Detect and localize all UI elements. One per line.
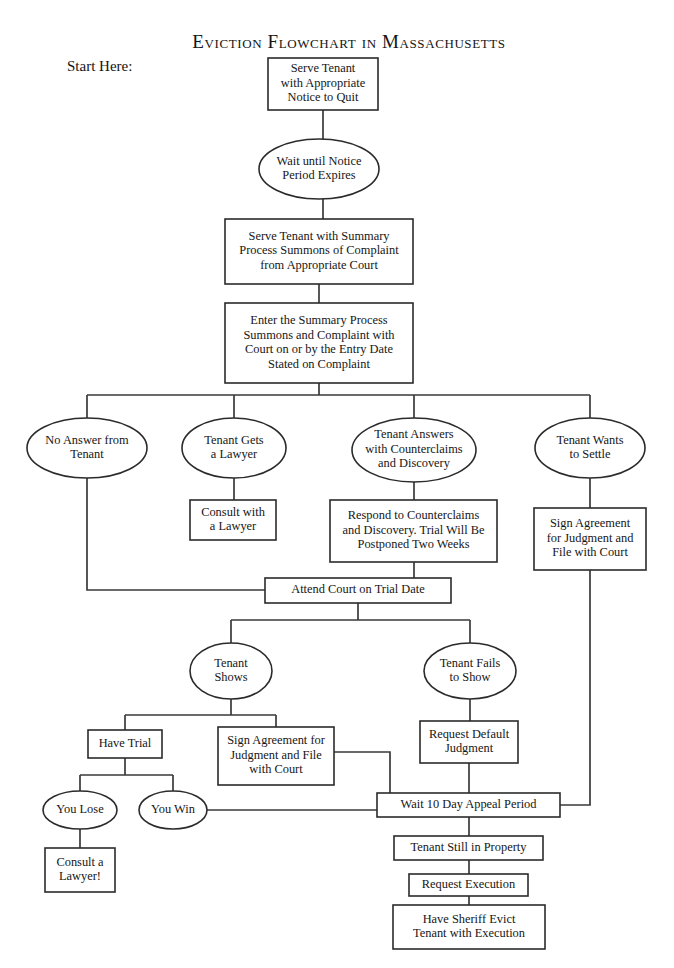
node-label: to Show bbox=[450, 670, 491, 684]
flow-node[interactable]: Tenant Still in Property bbox=[394, 836, 543, 860]
node-label: Tenant bbox=[70, 447, 104, 461]
node-label: Enter the Summary Process bbox=[250, 313, 387, 327]
node-label: with Counterclaims bbox=[365, 442, 463, 456]
node-label: and Discovery bbox=[378, 456, 451, 470]
flowchart-canvas: Eviction Flowchart in Massachusetts Star… bbox=[0, 0, 674, 968]
node-label: from Appropriate Court bbox=[260, 258, 378, 272]
node-label: Request Execution bbox=[422, 877, 515, 891]
node-label: Serve Tenant bbox=[291, 61, 356, 75]
node-label: Have Trial bbox=[99, 736, 152, 750]
node-label: Postponed Two Weeks bbox=[358, 537, 470, 551]
flow-connector bbox=[334, 752, 390, 793]
node-label: for Judgment and bbox=[547, 531, 635, 545]
flow-connector bbox=[231, 603, 470, 645]
node-label: a Lawyer bbox=[210, 519, 257, 533]
node-label: Tenant Gets bbox=[204, 433, 264, 447]
flow-node[interactable]: Have Trial bbox=[88, 730, 162, 758]
node-label: Wait until Notice bbox=[276, 154, 362, 168]
node-label: Tenant Wants bbox=[556, 433, 623, 447]
node-label: Period Expires bbox=[282, 168, 355, 182]
flow-node[interactable]: Consult witha Lawyer bbox=[190, 500, 276, 540]
node-label: Notice to Quit bbox=[288, 90, 359, 104]
flow-connector bbox=[80, 758, 173, 791]
node-label: Tenant Fails bbox=[440, 656, 501, 670]
node-label: Process Summons of Complaint bbox=[239, 243, 399, 257]
flow-node[interactable]: Have Sheriff EvictTenant with Execution bbox=[393, 905, 545, 949]
node-label: a Lawyer bbox=[211, 447, 258, 461]
flow-node[interactable]: Wait until NoticePeriod Expires bbox=[259, 139, 379, 199]
flow-node[interactable]: TenantShows bbox=[190, 643, 272, 699]
node-label: Sign Agreement for bbox=[227, 733, 326, 747]
node-label: Wait 10 Day Appeal Period bbox=[401, 797, 538, 811]
flow-node[interactable]: Respond to Counterclaimsand Discovery. T… bbox=[330, 500, 497, 562]
flow-connector bbox=[560, 570, 590, 805]
node-label: with Court bbox=[249, 762, 303, 776]
flow-node[interactable]: Enter the Summary ProcessSummons and Com… bbox=[225, 303, 413, 383]
node-label: You Win bbox=[151, 802, 195, 816]
node-label: Court on or by the Entry Date bbox=[245, 342, 393, 356]
node-label: File with Court bbox=[552, 545, 628, 559]
node-label: You Lose bbox=[56, 802, 104, 816]
flow-connector bbox=[87, 383, 590, 421]
node-label: Stated on Complaint bbox=[268, 357, 370, 371]
flow-node[interactable]: You Lose bbox=[43, 791, 117, 829]
node-label: Consult a bbox=[56, 855, 104, 869]
flow-node[interactable]: Consult aLawyer! bbox=[45, 848, 115, 892]
flow-node[interactable]: Request Execution bbox=[409, 874, 528, 896]
node-label: Respond to Counterclaims bbox=[348, 508, 480, 522]
node-layer: Serve Tenantwith AppropriateNotice to Qu… bbox=[27, 58, 646, 949]
flow-node[interactable]: Sign Agreement forJudgment and Filewith … bbox=[218, 727, 334, 785]
node-label: Tenant Answers bbox=[374, 427, 453, 441]
node-label: and Discovery. Trial Will Be bbox=[343, 523, 485, 537]
node-label: Judgment bbox=[445, 741, 494, 755]
node-label: Serve Tenant with Summary bbox=[248, 229, 390, 243]
node-label: Attend Court on Trial Date bbox=[291, 582, 425, 596]
flow-node[interactable]: No Answer fromTenant bbox=[27, 418, 147, 478]
flow-node[interactable]: Serve Tenant with SummaryProcess Summons… bbox=[225, 219, 413, 284]
node-label: Lawyer! bbox=[59, 869, 101, 883]
node-label: to Settle bbox=[570, 447, 611, 461]
node-label: Request Default bbox=[429, 727, 510, 741]
flow-node[interactable]: Request DefaultJudgment bbox=[420, 721, 518, 763]
node-label: No Answer from bbox=[45, 433, 129, 447]
flow-node[interactable]: Tenant Answerswith Counterclaimsand Disc… bbox=[352, 418, 476, 482]
flow-node[interactable]: Sign Agreementfor Judgment andFile with … bbox=[534, 508, 646, 570]
flow-node[interactable]: Tenant Getsa Lawyer bbox=[182, 418, 286, 478]
flow-node[interactable]: Serve Tenantwith AppropriateNotice to Qu… bbox=[268, 58, 378, 110]
node-label: Summons and Complaint with bbox=[243, 328, 395, 342]
flow-node[interactable]: Tenant Wantsto Settle bbox=[535, 418, 645, 478]
flow-node[interactable]: Attend Court on Trial Date bbox=[265, 578, 451, 603]
node-label: Consult with bbox=[201, 505, 265, 519]
node-label: Judgment and File bbox=[230, 748, 322, 762]
flow-connector bbox=[125, 699, 276, 730]
node-label: with Appropriate bbox=[281, 76, 366, 90]
node-label: Tenant with Execution bbox=[413, 926, 525, 940]
flow-node[interactable]: You Win bbox=[139, 791, 207, 829]
node-label: Shows bbox=[214, 670, 247, 684]
flow-node[interactable]: Wait 10 Day Appeal Period bbox=[377, 793, 560, 817]
eviction-flowchart: Eviction Flowchart in Massachusetts Star… bbox=[0, 0, 674, 968]
flow-node[interactable]: Tenant Failsto Show bbox=[424, 643, 516, 699]
node-label: Sign Agreement bbox=[550, 516, 631, 530]
page-title: Eviction Flowchart in Massachusetts bbox=[192, 31, 505, 52]
start-here-label: Start Here: bbox=[67, 58, 132, 74]
node-label: Tenant bbox=[214, 656, 248, 670]
node-label: Have Sheriff Evict bbox=[423, 912, 516, 926]
node-label: Tenant Still in Property bbox=[411, 840, 528, 854]
